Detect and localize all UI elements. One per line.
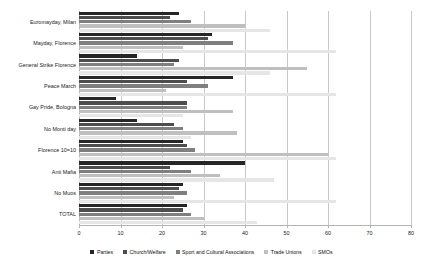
tick-mark-80 xyxy=(411,225,412,228)
bar xyxy=(79,204,187,207)
category-label: Peace March xyxy=(0,83,76,89)
bar-group xyxy=(79,204,411,224)
bar xyxy=(79,144,187,147)
category-label: General Strike Florence xyxy=(0,62,76,68)
bar xyxy=(79,140,183,143)
bar-group xyxy=(79,54,411,74)
bar xyxy=(79,29,270,32)
bar xyxy=(79,84,208,87)
bar xyxy=(79,76,233,79)
bar-group xyxy=(79,33,411,53)
tick-mark-60 xyxy=(328,225,329,228)
bar xyxy=(79,119,137,122)
bar-group xyxy=(79,76,411,96)
bar xyxy=(79,196,174,199)
bar xyxy=(79,213,191,216)
bar xyxy=(79,127,183,130)
bar xyxy=(79,110,233,113)
legend-label: Trade Unions xyxy=(271,249,302,255)
tick-mark-20 xyxy=(162,225,163,228)
bar-group xyxy=(79,161,411,181)
legend-swatch-icon xyxy=(90,250,94,254)
tick-label-60: 60 xyxy=(325,230,331,236)
bar xyxy=(79,46,183,49)
tick-mark-30 xyxy=(204,225,205,228)
bar xyxy=(79,161,245,164)
legend-item[interactable]: SMOs xyxy=(312,249,333,255)
category-label: Gay Pride, Bologna xyxy=(0,104,76,110)
bar xyxy=(79,136,191,139)
bar xyxy=(79,131,237,134)
bar xyxy=(79,221,257,224)
bar xyxy=(79,106,187,109)
category-label: No Monti day xyxy=(0,126,76,132)
bar xyxy=(79,208,183,211)
bar xyxy=(79,217,204,220)
tick-mark-70 xyxy=(370,225,371,228)
bar xyxy=(79,33,212,36)
legend-swatch-icon xyxy=(123,250,127,254)
bar xyxy=(79,93,336,96)
bar xyxy=(79,148,195,151)
bar xyxy=(79,166,170,169)
bar xyxy=(79,63,174,66)
legend-swatch-icon xyxy=(264,250,268,254)
legend-item[interactable]: Church/Welfare xyxy=(123,249,165,255)
plot-area xyxy=(79,11,411,225)
bar xyxy=(79,20,191,23)
bar xyxy=(79,41,233,44)
legend-swatch-icon xyxy=(176,250,180,254)
bar xyxy=(79,187,179,190)
bar-group xyxy=(79,97,411,117)
tick-label-70: 70 xyxy=(367,230,373,236)
bar-group xyxy=(79,12,411,32)
bar xyxy=(79,114,183,117)
category-label: No Muos xyxy=(0,190,76,196)
tick-label-80: 80 xyxy=(408,230,414,236)
bar xyxy=(79,54,137,57)
chart-legend: PartiesChurch/WelfareSport and Cultural … xyxy=(0,246,423,258)
legend-label: SMOs xyxy=(318,249,332,255)
bar xyxy=(79,80,187,83)
legend-item[interactable]: Parties xyxy=(90,249,113,255)
tick-label-0: 0 xyxy=(78,230,81,236)
bar xyxy=(79,153,328,156)
bar xyxy=(79,157,336,160)
bar xyxy=(79,101,187,104)
x-axis-ticks: 01020304050607080 xyxy=(79,225,411,241)
category-axis-labels: Euromayday, MilanMayday, FlorenceGeneral… xyxy=(0,11,76,225)
tick-label-30: 30 xyxy=(201,230,207,236)
bar xyxy=(79,97,116,100)
legend-label: Church/Welfare xyxy=(130,249,166,255)
bar xyxy=(79,183,183,186)
bar xyxy=(79,24,245,27)
bar xyxy=(79,67,307,70)
bar xyxy=(79,170,191,173)
bar xyxy=(79,37,208,40)
bar-groups xyxy=(79,11,411,225)
tick-label-20: 20 xyxy=(159,230,165,236)
category-label: TOTAL xyxy=(0,211,76,217)
bar xyxy=(79,50,336,53)
bar-group xyxy=(79,140,411,160)
category-label: Florence 10=10 xyxy=(0,147,76,153)
bar xyxy=(79,178,274,181)
tick-mark-50 xyxy=(287,225,288,228)
bar-group xyxy=(79,183,411,203)
bar xyxy=(79,71,270,74)
tick-mark-10 xyxy=(121,225,122,228)
bar-chart: Euromayday, MilanMayday, FlorenceGeneral… xyxy=(0,0,423,260)
bar xyxy=(79,12,179,15)
tick-label-40: 40 xyxy=(242,230,248,236)
bar-group xyxy=(79,119,411,139)
tick-mark-40 xyxy=(245,225,246,228)
legend-item[interactable]: Trade Unions xyxy=(264,249,301,255)
tick-label-10: 10 xyxy=(118,230,124,236)
category-label: Anti Mafia xyxy=(0,169,76,175)
tick-mark-0 xyxy=(79,225,80,228)
legend-item[interactable]: Sport and Cultural Associations xyxy=(176,249,255,255)
category-label: Euromayday, Milan xyxy=(0,19,76,25)
legend-label: Sport and Cultural Associations xyxy=(182,249,254,255)
bar xyxy=(79,123,174,126)
legend-label: Parties xyxy=(97,249,113,255)
